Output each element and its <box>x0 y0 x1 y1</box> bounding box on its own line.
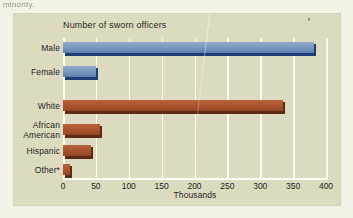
bar-face <box>63 66 96 77</box>
chart-title: Number of sworn officers <box>63 20 166 30</box>
bar-face <box>63 124 100 135</box>
scan-artifact-dot <box>308 18 310 21</box>
category-axis-labels: MaleFemaleWhiteAfricanAmericanHispanicOt… <box>14 38 60 178</box>
bar-base-shading <box>65 77 98 80</box>
category-label-female: Female <box>31 67 60 77</box>
bar-african <box>63 124 100 135</box>
category-label-african: AfricanAmerican <box>23 120 60 140</box>
category-label-line2: American <box>23 130 60 140</box>
chart-figure: Number of sworn officers MaleFemaleWhite… <box>14 14 340 205</box>
bar-base-shading <box>65 175 72 178</box>
bar-white <box>63 100 283 111</box>
bar-face <box>63 42 314 53</box>
bar-hispanic <box>63 145 91 156</box>
plot-area: 050100150200250300350400 <box>63 38 327 178</box>
bar-female <box>63 66 96 77</box>
category-label-hispanic: Hispanic <box>27 146 60 156</box>
gridline <box>293 38 294 178</box>
value-axis-line <box>63 178 327 180</box>
scanned-page: minority. Number of sworn officers MaleF… <box>0 0 353 218</box>
bar-base-shading <box>65 156 93 159</box>
bar-other <box>63 164 70 175</box>
bar-base-shading <box>65 53 316 56</box>
bar-male <box>63 42 314 53</box>
category-label-other: Other* <box>35 165 60 175</box>
bar-base-shading <box>65 135 102 138</box>
bar-face <box>63 100 283 111</box>
category-label-male: Male <box>41 43 60 53</box>
gridline <box>326 38 327 178</box>
category-label-white: White <box>38 101 60 111</box>
x-axis-title: Thousands <box>63 190 327 200</box>
bar-base-shading <box>65 111 285 114</box>
body-text-fragment: minority. <box>3 0 73 9</box>
bar-face <box>63 145 91 156</box>
